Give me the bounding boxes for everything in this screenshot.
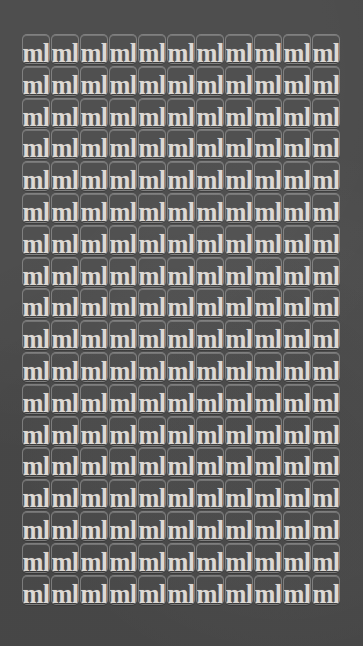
tile[interactable]: ml xyxy=(80,129,108,159)
tile[interactable]: ml xyxy=(22,34,50,64)
tile[interactable]: ml xyxy=(167,257,195,287)
tile[interactable]: ml xyxy=(225,34,253,64)
tile[interactable]: ml xyxy=(196,193,224,223)
tile[interactable]: ml xyxy=(22,225,50,255)
tile[interactable]: ml xyxy=(225,416,253,446)
tile[interactable]: ml xyxy=(22,384,50,414)
tile[interactable]: ml xyxy=(225,225,253,255)
tile[interactable]: ml xyxy=(196,66,224,96)
tile[interactable]: ml xyxy=(80,66,108,96)
tile[interactable]: ml xyxy=(225,129,253,159)
tile[interactable]: ml xyxy=(167,416,195,446)
tile[interactable]: ml xyxy=(167,193,195,223)
tile[interactable]: ml xyxy=(196,479,224,509)
tile[interactable]: ml xyxy=(138,384,166,414)
tile[interactable]: ml xyxy=(167,575,195,605)
tile[interactable]: ml xyxy=(312,416,340,446)
tile[interactable]: ml xyxy=(138,575,166,605)
tile[interactable]: ml xyxy=(167,161,195,191)
tile[interactable]: ml xyxy=(109,98,137,128)
tile[interactable]: ml xyxy=(109,225,137,255)
tile[interactable]: ml xyxy=(167,225,195,255)
tile[interactable]: ml xyxy=(138,161,166,191)
tile[interactable]: ml xyxy=(312,34,340,64)
tile[interactable]: ml xyxy=(80,511,108,541)
tile[interactable]: ml xyxy=(109,193,137,223)
tile[interactable]: ml xyxy=(51,288,79,318)
tile[interactable]: ml xyxy=(109,257,137,287)
tile[interactable]: ml xyxy=(51,352,79,382)
tile[interactable]: ml xyxy=(283,98,311,128)
tile[interactable]: ml xyxy=(225,543,253,573)
tile[interactable]: ml xyxy=(80,161,108,191)
tile[interactable]: ml xyxy=(109,352,137,382)
tile[interactable]: ml xyxy=(225,193,253,223)
tile[interactable]: ml xyxy=(138,193,166,223)
tile[interactable]: ml xyxy=(312,257,340,287)
tile[interactable]: ml xyxy=(312,320,340,350)
tile[interactable]: ml xyxy=(138,511,166,541)
tile[interactable]: ml xyxy=(225,384,253,414)
tile[interactable]: ml xyxy=(312,193,340,223)
tile[interactable]: ml xyxy=(167,384,195,414)
tile[interactable]: ml xyxy=(138,416,166,446)
tile[interactable]: ml xyxy=(312,384,340,414)
tile[interactable]: ml xyxy=(283,320,311,350)
tile[interactable]: ml xyxy=(225,288,253,318)
tile[interactable]: ml xyxy=(167,66,195,96)
tile[interactable]: ml xyxy=(254,257,282,287)
tile[interactable]: ml xyxy=(283,352,311,382)
tile[interactable]: ml xyxy=(80,257,108,287)
tile[interactable]: ml xyxy=(138,479,166,509)
tile[interactable]: ml xyxy=(312,129,340,159)
tile[interactable]: ml xyxy=(51,257,79,287)
tile[interactable]: ml xyxy=(80,352,108,382)
tile[interactable]: ml xyxy=(167,543,195,573)
tile[interactable]: ml xyxy=(22,543,50,573)
tile[interactable]: ml xyxy=(22,257,50,287)
tile[interactable]: ml xyxy=(196,320,224,350)
tile[interactable]: ml xyxy=(80,225,108,255)
tile[interactable]: ml xyxy=(109,384,137,414)
tile[interactable]: ml xyxy=(283,257,311,287)
tile[interactable]: ml xyxy=(254,161,282,191)
tile[interactable]: ml xyxy=(51,479,79,509)
tile[interactable]: ml xyxy=(51,66,79,96)
tile[interactable]: ml xyxy=(283,193,311,223)
tile[interactable]: ml xyxy=(22,161,50,191)
tile[interactable]: ml xyxy=(254,34,282,64)
tile[interactable]: ml xyxy=(312,352,340,382)
tile[interactable]: ml xyxy=(22,193,50,223)
tile[interactable]: ml xyxy=(51,575,79,605)
tile[interactable]: ml xyxy=(22,447,50,477)
tile[interactable]: ml xyxy=(196,575,224,605)
tile[interactable]: ml xyxy=(196,257,224,287)
tile[interactable]: ml xyxy=(167,352,195,382)
tile[interactable]: ml xyxy=(138,352,166,382)
tile[interactable]: ml xyxy=(254,479,282,509)
tile[interactable]: ml xyxy=(283,34,311,64)
tile[interactable]: ml xyxy=(51,511,79,541)
tile[interactable]: ml xyxy=(312,98,340,128)
tile[interactable]: ml xyxy=(51,225,79,255)
tile[interactable]: ml xyxy=(254,288,282,318)
tile[interactable]: ml xyxy=(196,416,224,446)
tile[interactable]: ml xyxy=(225,511,253,541)
tile[interactable]: ml xyxy=(312,511,340,541)
tile[interactable]: ml xyxy=(254,575,282,605)
tile[interactable]: ml xyxy=(225,479,253,509)
tile[interactable]: ml xyxy=(254,447,282,477)
tile[interactable]: ml xyxy=(138,66,166,96)
tile[interactable]: ml xyxy=(22,479,50,509)
tile[interactable]: ml xyxy=(109,447,137,477)
tile[interactable]: ml xyxy=(167,320,195,350)
tile[interactable]: ml xyxy=(51,161,79,191)
tile[interactable]: ml xyxy=(80,98,108,128)
tile[interactable]: ml xyxy=(109,511,137,541)
tile[interactable]: ml xyxy=(80,416,108,446)
tile[interactable]: ml xyxy=(283,161,311,191)
tile[interactable]: ml xyxy=(283,288,311,318)
tile[interactable]: ml xyxy=(196,543,224,573)
tile[interactable]: ml xyxy=(225,257,253,287)
tile[interactable]: ml xyxy=(254,193,282,223)
